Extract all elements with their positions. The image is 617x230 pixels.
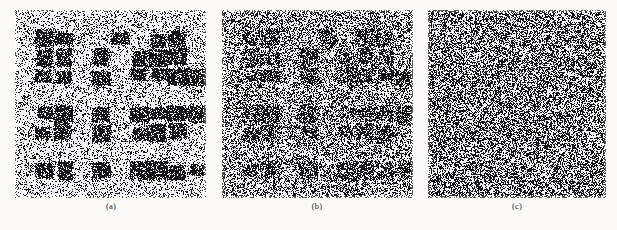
panel-caption-c: (c) <box>499 201 535 211</box>
image-panel-c <box>428 10 606 198</box>
noisy-image-c <box>428 10 606 198</box>
panel-caption-b: (b) <box>299 201 335 211</box>
panel-caption-a: (a) <box>93 201 129 211</box>
noisy-image-b <box>222 10 413 198</box>
figure-root: (a) (b) (c) <box>0 0 617 230</box>
image-panel-b <box>222 10 413 198</box>
image-panel-a <box>15 10 206 198</box>
noisy-image-a <box>15 10 206 198</box>
